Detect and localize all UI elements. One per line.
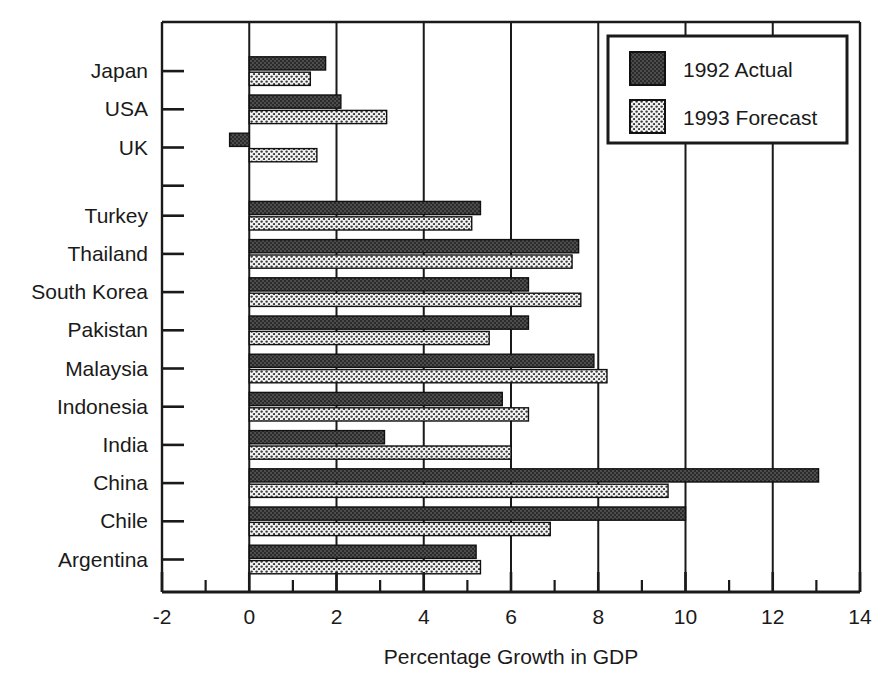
category-label-thailand: Thailand	[67, 242, 148, 265]
bar	[249, 217, 471, 230]
legend-label-1: 1992 Actual	[683, 58, 793, 81]
bar	[249, 354, 594, 367]
category-label-india: India	[102, 433, 148, 456]
category-label-indonesia: Indonesia	[57, 395, 148, 418]
x-tick-label-0: 0	[243, 605, 255, 628]
bar	[249, 561, 480, 574]
x-axis-title: Percentage Growth in GDP	[384, 645, 638, 668]
x-tick-label-12: 12	[761, 605, 784, 628]
bar	[230, 133, 250, 146]
category-label-china: China	[93, 471, 148, 494]
bar	[249, 431, 384, 444]
bar	[249, 72, 310, 85]
category-label-turkey: Turkey	[85, 204, 149, 227]
x-tick-label--2: -2	[153, 605, 172, 628]
bar	[249, 469, 818, 482]
legend-swatch-1	[630, 52, 665, 85]
bar	[249, 201, 480, 214]
x-tick-label-2: 2	[331, 605, 343, 628]
category-label-malaysia: Malaysia	[65, 357, 148, 380]
x-tick-label-8: 8	[592, 605, 604, 628]
bar	[249, 370, 607, 383]
category-label-usa: USA	[105, 97, 148, 120]
category-label-argentina: Argentina	[58, 548, 148, 571]
bar	[249, 110, 386, 123]
category-label-uk: UK	[119, 136, 148, 159]
legend-label-2: 1993 Forecast	[683, 106, 817, 129]
category-label-south-korea: South Korea	[31, 280, 148, 303]
bar	[249, 392, 502, 405]
bar	[249, 57, 325, 70]
category-label-japan: Japan	[91, 59, 148, 82]
bar	[249, 240, 578, 253]
legend-swatch-2	[630, 100, 665, 133]
bar	[249, 484, 668, 497]
category-label-pakistan: Pakistan	[67, 318, 148, 341]
plot-area: JapanUSAUKTurkeyThailandSouth KoreaPakis…	[31, 22, 872, 668]
bar	[249, 149, 317, 162]
bar	[249, 545, 476, 558]
bar	[249, 331, 489, 344]
bar	[249, 446, 511, 459]
bar	[249, 522, 550, 535]
category-label-chile: Chile	[100, 509, 148, 532]
x-tick-label-4: 4	[418, 605, 430, 628]
bar	[249, 408, 528, 421]
x-tick-label-14: 14	[848, 605, 872, 628]
bar	[249, 255, 572, 268]
bar	[249, 278, 528, 291]
gdp-growth-bar-chart: JapanUSAUKTurkeyThailandSouth KoreaPakis…	[0, 0, 888, 682]
bar	[249, 95, 341, 108]
chart-canvas: JapanUSAUKTurkeyThailandSouth KoreaPakis…	[0, 0, 888, 682]
x-tick-label-6: 6	[505, 605, 517, 628]
bar	[249, 293, 581, 306]
x-tick-label-10: 10	[674, 605, 697, 628]
bar	[249, 507, 685, 520]
bar	[249, 316, 528, 329]
